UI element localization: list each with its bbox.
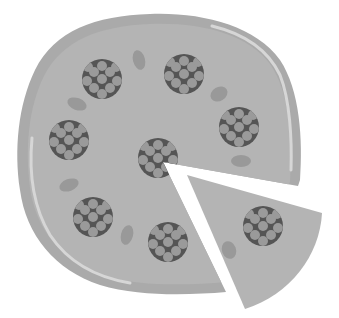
pepperoni [49,120,89,160]
olive [231,155,251,167]
pepperoni [138,138,178,178]
pepperoni [219,107,259,147]
pepperoni [82,59,122,99]
pepperoni [164,54,204,94]
pepperoni [243,206,283,246]
pizza-illustration [0,0,339,318]
pepperoni [73,197,113,237]
pizza-graphic [0,0,339,318]
pepperoni [148,222,188,262]
